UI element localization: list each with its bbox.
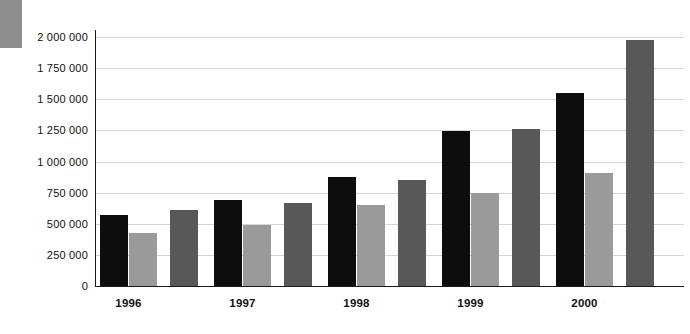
bar-series-1-2000	[556, 93, 584, 286]
y-tick-label: 2 000 000	[2, 32, 88, 43]
y-tick-label: 250 000	[2, 250, 88, 261]
bar-series-1-1997	[214, 200, 242, 286]
gridline	[96, 68, 684, 69]
bar-series-3-1999	[512, 129, 540, 286]
bar-series-2-1996	[129, 233, 157, 286]
gridline	[96, 130, 684, 131]
bar-series-2-1999	[471, 193, 499, 286]
y-tick-label: 0	[2, 281, 88, 292]
bar-series-3-1997	[284, 203, 312, 286]
bar-series-2-1998	[357, 205, 385, 286]
plot-area	[96, 37, 684, 286]
bar-series-2-2000	[585, 173, 613, 286]
x-axis-category-label: 1998	[318, 297, 395, 309]
bar-series-1-1999	[442, 131, 470, 286]
x-axis-category-label: 2000	[546, 297, 623, 309]
y-axis-tick-labels: 2 000 0001 750 0001 500 0001 250 0001 00…	[0, 0, 88, 334]
y-tick-label: 1 000 000	[2, 157, 88, 168]
y-tick-label: 1 250 000	[2, 125, 88, 136]
y-tick-label: 1 500 000	[2, 94, 88, 105]
bar-series-2-1997	[243, 225, 271, 286]
y-tick-label: 500 000	[2, 219, 88, 230]
x-axis-category-label: 1999	[432, 297, 509, 309]
x-axis-line	[95, 286, 684, 287]
bar-series-1-1996	[100, 215, 128, 286]
gridline	[96, 37, 684, 38]
x-axis-category-label: 1996	[90, 297, 167, 309]
bar-series-1-1998	[328, 177, 356, 286]
bar-series-3-1996	[170, 210, 198, 286]
gridline	[96, 99, 684, 100]
grouped-bar-chart: 2 000 0001 750 0001 500 0001 250 0001 00…	[0, 0, 690, 334]
y-tick-label: 1 750 000	[2, 63, 88, 74]
y-tick-label: 750 000	[2, 188, 88, 199]
x-axis-category-label: 1997	[204, 297, 281, 309]
bar-series-3-1998	[398, 180, 426, 286]
gridline	[96, 162, 684, 163]
bar-series-3-2000	[626, 40, 654, 286]
